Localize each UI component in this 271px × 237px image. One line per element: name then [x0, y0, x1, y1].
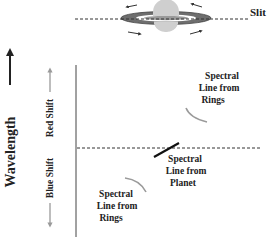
svg-text:Rings: Rings	[99, 213, 123, 223]
svg-text:Spectral: Spectral	[99, 189, 133, 199]
spectroscopy-diagram: Slit Wavelength Red Shift Blue Shift Spe…	[0, 0, 271, 237]
blue-shift-label: Blue Shift	[45, 157, 55, 198]
svg-text:Line from: Line from	[97, 201, 138, 211]
svg-text:Rings: Rings	[201, 95, 225, 105]
label-planet: Spectral Line from Planet	[166, 154, 207, 188]
svg-text:Line from: Line from	[166, 166, 207, 176]
rings-spectral-line-upper	[186, 108, 207, 122]
ringed-planet-icon	[121, 0, 211, 32]
label-rings-upper: Spectral Line from Rings	[199, 71, 240, 105]
label-rings-lower: Spectral Line from Rings	[97, 189, 138, 223]
red-shift-label: Red Shift	[45, 98, 55, 137]
wavelength-label: Wavelength	[3, 116, 18, 187]
svg-text:Spectral: Spectral	[205, 71, 239, 81]
rotation-arrow-icon	[128, 32, 140, 34]
svg-text:Spectral: Spectral	[168, 154, 202, 164]
rotation-arrow-icon	[192, 4, 202, 7]
rotation-arrow-icon	[127, 5, 137, 7]
slit-label: Slit	[250, 6, 266, 18]
svg-text:Line from: Line from	[199, 83, 240, 93]
rotation-arrow-icon	[190, 31, 201, 34]
svg-text:Planet: Planet	[170, 178, 197, 188]
